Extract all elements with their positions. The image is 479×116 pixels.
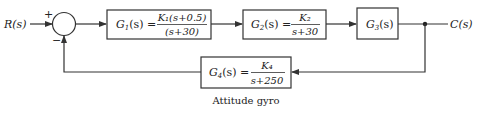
block-g1: G1(s) = K₁(s+0.5) (s+30) xyxy=(107,10,211,39)
input-label: R(s) xyxy=(3,18,27,31)
minus-sign: − xyxy=(52,34,61,47)
plus-sign: + xyxy=(44,8,53,21)
g4-denominator: s+250 xyxy=(251,75,284,86)
g2-lhs: G2(s) = xyxy=(251,18,291,32)
g4-lhs: G4(s) = xyxy=(209,66,249,80)
g1-lhs: G1(s) = xyxy=(116,18,156,32)
block-diagram: R(s) + − G1(s) = K₁(s+0.5) (s+30) G2(s) … xyxy=(0,0,479,116)
feedback-arrow-to-sum xyxy=(64,36,201,72)
block-g4: G4(s) = K₄ s+250 xyxy=(201,57,291,88)
block-g3: G3(s) xyxy=(357,8,398,39)
g3-lhs: G3(s) xyxy=(366,18,394,32)
g4-numerator: K₄ xyxy=(260,60,272,71)
block-g2: G2(s) = K₂ s+30 xyxy=(243,10,326,39)
feedback-caption: Attitude gyro xyxy=(211,95,279,106)
output-label: C(s) xyxy=(450,18,473,31)
g2-numerator: K₂ xyxy=(298,12,310,23)
g1-denominator: (s+30) xyxy=(165,26,199,37)
g1-numerator: K₁(s+0.5) xyxy=(157,12,207,23)
g2-denominator: s+30 xyxy=(292,26,319,37)
summing-junction xyxy=(53,13,76,36)
